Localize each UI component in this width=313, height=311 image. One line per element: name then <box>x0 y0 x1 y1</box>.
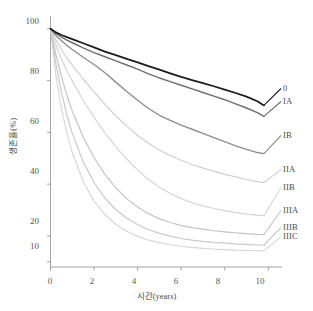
y-tick-label: 20 <box>13 217 39 226</box>
x-tick-label: 8 <box>206 277 230 286</box>
curve-iiib <box>51 29 264 245</box>
curve-series <box>51 29 282 251</box>
curve-0 <box>51 29 264 106</box>
curve-iiia <box>51 29 264 235</box>
x-tick-label: 4 <box>122 277 146 286</box>
x-tick-label: 0 <box>38 277 62 286</box>
series-label-iiic: IIIC <box>283 232 298 241</box>
series-label-iib: IIB <box>283 183 295 192</box>
y-axis-title: 생존율(%) <box>9 101 18 171</box>
y-tick-label: 100 <box>13 17 39 26</box>
x-tick-label: 2 <box>80 277 104 286</box>
leader-line-iib <box>264 188 281 216</box>
leader-line-ib <box>264 136 281 154</box>
y-tick-label: 10 <box>13 242 39 251</box>
series-label-ia: IA <box>283 97 292 106</box>
leader-line-ia <box>264 102 281 117</box>
axes <box>47 16 282 271</box>
x-tick-label: 6 <box>164 277 188 286</box>
curve-ia <box>51 29 264 117</box>
plot-canvas <box>0 0 313 311</box>
series-label-iia: IIA <box>283 165 295 174</box>
leader-line-iiic <box>264 237 281 251</box>
x-axis-title: 시간(years) <box>0 292 313 301</box>
survival-curve-figure: 100 80 60 40 20 10 0 2 4 6 8 10 생존율(%) 시… <box>0 0 313 311</box>
series-label-0: 0 <box>283 84 287 93</box>
y-tick-label: 80 <box>13 67 39 76</box>
leader-line-iiia <box>264 211 281 235</box>
series-label-ib: IB <box>283 131 292 140</box>
leader-line-iia <box>264 170 281 183</box>
x-tick-label: 10 <box>248 277 272 286</box>
series-label-iiia: IIIA <box>283 206 298 215</box>
leader-line-0 <box>264 89 281 106</box>
